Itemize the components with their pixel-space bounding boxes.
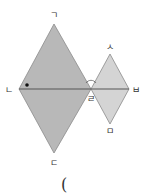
answer-blank-paren: ( [61,175,67,194]
angle-dot-mark [25,83,29,87]
label-m: ㅁ [106,126,114,136]
label-d: ㄷ [50,158,58,168]
label-g: ㄱ [50,10,58,20]
label-n: ㄴ [5,85,13,95]
rhombus-diagram: ㄱ ㄴ ㄷ ㄹ ㅂ ㅅ ㅁ ( [0,0,150,194]
label-s: ㅅ [106,42,114,52]
label-b: ㅂ [132,85,140,95]
label-r: ㄹ [87,94,95,104]
